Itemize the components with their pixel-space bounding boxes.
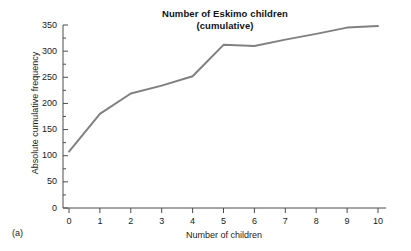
- figure-panel: Number of Eskimo children (cumulative) A…: [0, 0, 411, 251]
- data-series-line: [69, 26, 378, 151]
- axes-group: [63, 25, 386, 208]
- tick-marks-group: [63, 25, 378, 213]
- plot-area: [0, 0, 411, 251]
